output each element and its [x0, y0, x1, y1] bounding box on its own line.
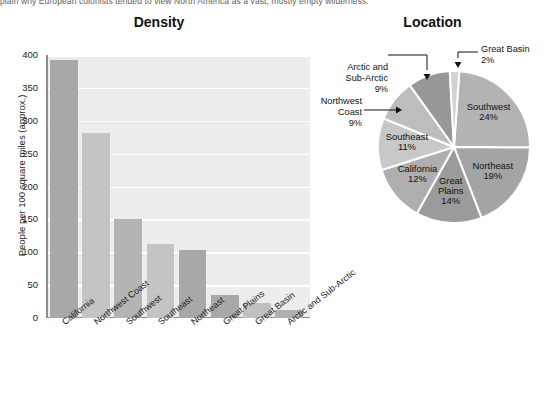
bar	[82, 133, 110, 318]
callout-label-line: Northwest	[290, 96, 362, 107]
callout-label-line: Arctic and	[306, 62, 388, 73]
figure-root: plain why European colonists tended to v…	[0, 0, 547, 393]
callout-label-line: 9%	[306, 84, 388, 95]
callout-leader-line	[388, 55, 427, 70]
callout-label-line: Coast	[290, 107, 362, 118]
callout-leader-line	[458, 52, 478, 58]
bar-chart-bars	[47, 55, 310, 318]
callout-label-line: 9%	[290, 118, 362, 129]
y-tick-label: 350	[4, 82, 38, 93]
callout-label-line: Sub-Arctic	[306, 73, 388, 84]
callout-arrow-icon	[455, 62, 462, 68]
cut-off-body-text: plain why European colonists tended to v…	[0, 0, 547, 6]
bar-chart-x-tick-labels: CaliforniaNorthwest CoastSouthwestSouthe…	[47, 319, 327, 389]
pie-callout-northwest-coast: NorthwestCoast9%	[290, 96, 362, 129]
y-tick-label: 400	[4, 49, 38, 60]
y-tick-label: 200	[4, 181, 38, 192]
callout-label-line: Great Basin	[481, 44, 547, 55]
y-tick-label: 0	[4, 312, 38, 323]
y-tick-label: 300	[4, 115, 38, 126]
pie-callout-great-basin: Great Basin2%	[481, 44, 547, 66]
y-tick-label: 100	[4, 246, 38, 257]
density-bar-chart: Density People per 100 square miles (app…	[0, 10, 330, 385]
y-tick-label: 50	[4, 279, 38, 290]
bar	[50, 60, 78, 318]
pie-slice-label: GreatPlains14%	[438, 175, 464, 207]
y-tick-label: 250	[4, 148, 38, 159]
bar-chart-title: Density	[0, 14, 318, 30]
callout-label-line: 2%	[481, 55, 547, 66]
location-pie-chart: Location Southwest24%Northeast19%GreatPl…	[318, 10, 547, 270]
pie-callout-arctic: Arctic andSub-Arctic9%	[306, 62, 388, 95]
y-tick-label: 150	[4, 213, 38, 224]
